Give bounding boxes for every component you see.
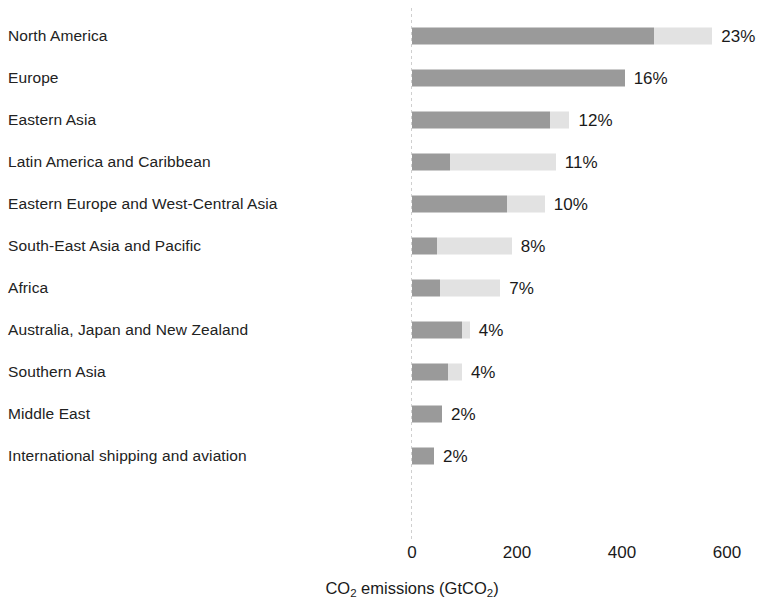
bar-value-label: 12% bbox=[579, 112, 613, 129]
plot-area: North America23%Europe16%Eastern Asia12%… bbox=[0, 0, 768, 540]
bar-value-label: 16% bbox=[634, 70, 668, 87]
bar-row: North America23% bbox=[0, 15, 768, 57]
bar-row: Middle East2% bbox=[0, 393, 768, 435]
bar-segment-light bbox=[440, 280, 500, 297]
bar-value-label: 4% bbox=[479, 322, 504, 339]
stacked-bar bbox=[412, 28, 712, 45]
bar-segment-dark bbox=[412, 406, 442, 423]
stacked-bar bbox=[412, 322, 470, 339]
bar-value-label: 2% bbox=[443, 448, 468, 465]
bar-segment-dark bbox=[412, 364, 448, 381]
bar-segment-dark bbox=[412, 154, 450, 171]
bar-value-label: 4% bbox=[471, 364, 496, 381]
bar-segment-light bbox=[550, 112, 570, 129]
bar-segment-dark bbox=[412, 196, 507, 213]
category-label: Southern Asia bbox=[8, 364, 106, 380]
stacked-bar bbox=[412, 364, 462, 381]
x-axis-title-sub-2: 2 bbox=[487, 587, 493, 599]
stacked-bar bbox=[412, 196, 545, 213]
x-axis-title: CO2 emissions (GtCO2) bbox=[325, 580, 498, 597]
x-axis: CO2 emissions (GtCO2) 0200400600 bbox=[0, 540, 768, 608]
bar-segment-dark bbox=[412, 322, 462, 339]
bar-row: Eastern Asia12% bbox=[0, 99, 768, 141]
bar-row: Europe16% bbox=[0, 57, 768, 99]
bar-segment-dark bbox=[412, 112, 550, 129]
bar-value-label: 11% bbox=[565, 154, 598, 171]
bar-row: South-East Asia and Pacific8% bbox=[0, 225, 768, 267]
x-tick-label: 600 bbox=[713, 544, 741, 561]
category-label: Australia, Japan and New Zealand bbox=[8, 322, 248, 338]
x-tick-label: 0 bbox=[407, 544, 416, 561]
x-axis-title-sub-1: 2 bbox=[350, 587, 356, 599]
bar-row: Latin America and Caribbean11% bbox=[0, 141, 768, 183]
bar-segment-light bbox=[450, 154, 556, 171]
x-tick-label: 400 bbox=[608, 544, 636, 561]
bar-value-label: 23% bbox=[721, 28, 755, 45]
stacked-bar bbox=[412, 112, 569, 129]
category-label: South-East Asia and Pacific bbox=[8, 238, 201, 254]
stacked-bar bbox=[412, 406, 442, 423]
bar-segment-dark bbox=[412, 238, 437, 255]
bar-segment-light bbox=[507, 196, 545, 213]
bar-value-label: 10% bbox=[554, 196, 588, 213]
stacked-bar bbox=[412, 70, 625, 87]
stacked-bar bbox=[412, 448, 434, 465]
category-label: Europe bbox=[8, 70, 59, 86]
x-axis-title-post: ) bbox=[493, 579, 499, 597]
bar-segment-dark bbox=[412, 448, 434, 465]
bar-segment-light bbox=[437, 238, 512, 255]
category-label: International shipping and aviation bbox=[8, 448, 247, 464]
stacked-bar bbox=[412, 238, 512, 255]
category-label: North America bbox=[8, 28, 108, 44]
x-axis-title-pre: CO bbox=[325, 579, 350, 597]
category-label: Latin America and Caribbean bbox=[8, 154, 211, 170]
bar-value-label: 8% bbox=[521, 238, 546, 255]
bar-row: Australia, Japan and New Zealand4% bbox=[0, 309, 768, 351]
bar-segment-dark bbox=[412, 70, 625, 87]
x-axis-title-mid: emissions (GtCO bbox=[357, 579, 487, 597]
co2-emissions-bar-chart: North America23%Europe16%Eastern Asia12%… bbox=[0, 0, 768, 608]
category-label: Middle East bbox=[8, 406, 90, 422]
bar-row: Eastern Europe and West-Central Asia10% bbox=[0, 183, 768, 225]
bar-row: Southern Asia4% bbox=[0, 351, 768, 393]
stacked-bar bbox=[412, 154, 556, 171]
bar-segment-light bbox=[448, 364, 462, 381]
bar-segment-light bbox=[654, 28, 713, 45]
bar-value-label: 2% bbox=[451, 406, 476, 423]
category-label: Africa bbox=[8, 280, 48, 296]
bar-row: Africa7% bbox=[0, 267, 768, 309]
bar-segment-dark bbox=[412, 28, 654, 45]
bar-row: International shipping and aviation2% bbox=[0, 435, 768, 477]
stacked-bar bbox=[412, 280, 500, 297]
bar-segment-light bbox=[462, 322, 470, 339]
x-tick-label: 200 bbox=[503, 544, 531, 561]
category-label: Eastern Asia bbox=[8, 112, 96, 128]
bar-segment-dark bbox=[412, 280, 440, 297]
bar-value-label: 7% bbox=[509, 280, 534, 297]
category-label: Eastern Europe and West-Central Asia bbox=[8, 196, 278, 212]
